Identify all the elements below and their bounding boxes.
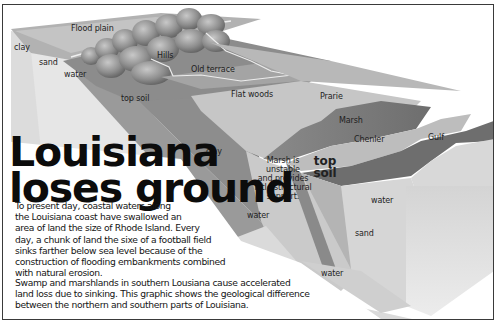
label-old-terrace: Old terrace xyxy=(191,65,235,74)
diagram-frame: Flood plain Hills Old terrace Flat woods… xyxy=(2,4,494,320)
label-top-soil-left: top soil xyxy=(121,94,149,103)
label-clay-left: clay xyxy=(14,43,30,52)
label-flood-plain: Flood plain xyxy=(71,24,114,33)
label-marsh: Marsh xyxy=(339,116,363,125)
label-top-soil-right: top soil xyxy=(313,155,337,179)
label-flat-woods: Flat woods xyxy=(231,90,273,99)
label-water-left: water xyxy=(64,70,86,79)
explanation-paragraph: Swamp and marshlands in southern Lousian… xyxy=(15,277,309,311)
label-water-bottom: water xyxy=(321,269,343,278)
label-sand-left: sand xyxy=(39,58,58,67)
label-water-middle: water xyxy=(247,211,269,220)
label-sand-right: sand xyxy=(355,229,374,238)
label-chenler: Chenler xyxy=(354,135,384,144)
diagram-title: Louisiana loses ground xyxy=(9,134,293,206)
intro-paragraph: To present day, coastal waters along the… xyxy=(15,200,225,278)
label-water-right: water xyxy=(371,196,393,205)
label-prarie: Prarie xyxy=(320,92,343,101)
label-gulf: Gulf xyxy=(428,133,444,142)
label-hills: Hills xyxy=(157,51,173,60)
